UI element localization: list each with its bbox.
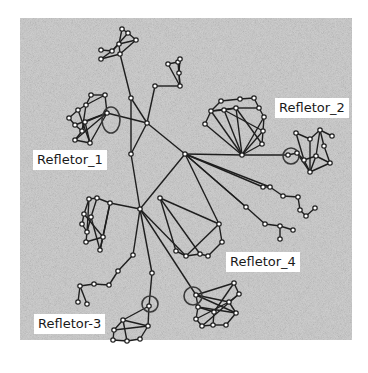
label-refletor-3: Refletor-3 — [34, 314, 105, 334]
network-node — [222, 108, 226, 112]
network-node — [125, 339, 129, 343]
network-node — [212, 310, 216, 314]
network-node — [82, 212, 86, 216]
network-node — [257, 106, 261, 110]
network-node — [116, 269, 120, 273]
edge — [148, 306, 149, 326]
network-node — [138, 207, 142, 211]
network-node — [107, 283, 111, 287]
network-node — [278, 224, 282, 228]
network-node — [278, 237, 282, 241]
network-node — [129, 152, 133, 156]
network-node — [313, 206, 317, 210]
network-node — [98, 248, 102, 252]
network-node — [166, 62, 170, 66]
network-node — [99, 48, 103, 52]
network-node — [261, 129, 265, 133]
network-node — [281, 194, 285, 198]
network-node — [227, 300, 231, 304]
network-node — [308, 170, 312, 174]
network-node — [112, 328, 116, 332]
network-node — [76, 300, 80, 304]
network-node — [262, 115, 266, 119]
network-node — [76, 108, 80, 112]
network-node — [237, 292, 241, 296]
network-node — [118, 52, 122, 56]
network-node — [146, 324, 150, 328]
network-node — [291, 228, 295, 232]
network-node — [294, 131, 298, 135]
network-node — [80, 129, 84, 133]
network-node — [110, 49, 114, 53]
network-node — [120, 27, 124, 31]
network-node — [89, 93, 93, 97]
network-node — [178, 57, 182, 61]
network-node — [67, 116, 71, 120]
network-node — [147, 304, 151, 308]
network-node — [308, 137, 312, 141]
label-refletor-1: Refletor_1 — [33, 150, 107, 170]
label-refletor-4: Refletor_4 — [226, 252, 300, 272]
network-node — [89, 215, 93, 219]
network-node — [101, 235, 105, 239]
network-node — [217, 222, 221, 226]
network-node — [85, 230, 89, 234]
network-node — [83, 120, 87, 124]
network-node — [268, 185, 272, 189]
network-node — [84, 240, 88, 244]
network-node — [203, 122, 207, 126]
network-node — [194, 293, 198, 297]
network-node — [178, 84, 182, 88]
network-node — [95, 196, 99, 200]
network-node — [108, 201, 112, 205]
network-node — [92, 282, 96, 286]
network-node — [330, 134, 334, 138]
network-node — [296, 195, 300, 199]
network-node — [134, 38, 138, 42]
network-node — [138, 337, 142, 341]
network-node — [328, 161, 332, 165]
network-node — [263, 222, 267, 226]
network-node — [232, 281, 236, 285]
network-node — [295, 151, 299, 155]
network-node — [73, 138, 77, 142]
network-node — [318, 128, 322, 132]
network-node — [304, 214, 308, 218]
network-node — [244, 205, 248, 209]
network-node — [240, 153, 244, 157]
network-node — [158, 196, 162, 200]
network-node — [196, 305, 200, 309]
edge — [185, 154, 242, 155]
network-node — [126, 31, 130, 35]
network-node — [206, 254, 210, 258]
network-node — [131, 253, 135, 257]
network-node — [153, 84, 157, 88]
network-node — [117, 42, 121, 46]
label-refletor-2: Refletor_2 — [275, 98, 349, 118]
network-node — [224, 323, 228, 327]
network-node — [302, 158, 306, 162]
network-node — [211, 323, 215, 327]
network-node — [129, 96, 133, 100]
network-node — [84, 103, 88, 107]
network-node — [73, 123, 77, 127]
network-node — [88, 141, 92, 145]
network-node — [238, 97, 242, 101]
network-node — [200, 324, 204, 328]
network-node — [87, 197, 91, 201]
network-node — [260, 142, 264, 146]
network-node — [234, 311, 238, 315]
network-node — [99, 57, 103, 61]
network-node — [174, 249, 178, 253]
network-node — [121, 318, 125, 322]
network-node — [220, 240, 224, 244]
network-node — [183, 152, 187, 156]
network-node — [80, 222, 84, 226]
network-node — [194, 317, 198, 321]
network-node — [111, 338, 115, 342]
network-node — [234, 106, 238, 110]
network-node — [261, 185, 265, 189]
network-node — [150, 271, 154, 275]
network-node — [184, 254, 188, 258]
network-node — [103, 93, 107, 97]
